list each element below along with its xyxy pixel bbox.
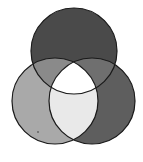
speck-dot (37, 131, 39, 133)
venn-diagram (0, 0, 143, 162)
